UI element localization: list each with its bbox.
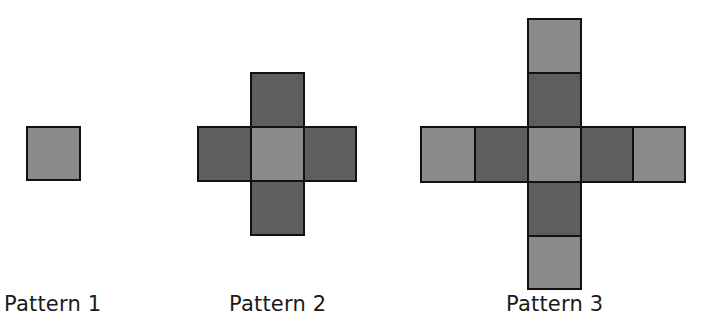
pattern-2-right-square [303, 126, 357, 182]
pattern-3-right-inner-square [580, 126, 634, 183]
pattern-3-left-outer-square [420, 126, 476, 183]
pattern-2-label: Pattern 2 [229, 292, 326, 316]
pattern-3-top-inner-square [527, 72, 582, 128]
pattern-3-label: Pattern 3 [506, 292, 603, 316]
pattern-2-top-square [250, 72, 305, 128]
pattern-3-top-outer-square [527, 18, 582, 74]
pattern-3-bottom-inner-square [527, 181, 582, 237]
pattern-1-center-square [26, 126, 81, 181]
pattern-2-center-square [250, 126, 305, 182]
pattern-3-center-square [527, 126, 582, 183]
pattern-1-label: Pattern 1 [4, 292, 101, 316]
pattern-3-bottom-outer-square [527, 235, 582, 290]
pattern-3-right-outer-square [632, 126, 686, 183]
pattern-2-left-square [197, 126, 252, 182]
pattern-2-bottom-square [250, 180, 305, 236]
pattern-3-left-inner-square [474, 126, 529, 183]
